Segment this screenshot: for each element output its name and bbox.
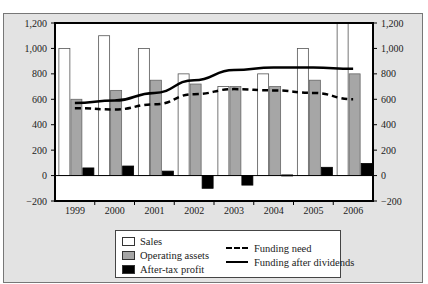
y-tick-label-right: 800	[381, 68, 396, 79]
bar-operating-assets	[270, 87, 281, 176]
y-tick-label-right: 1,200	[381, 18, 404, 29]
legend: Sales Operating assets After-tax profit …	[115, 230, 341, 278]
y-tick-label-left: 800	[32, 68, 47, 79]
legend-label: Funding after dividends	[254, 257, 354, 268]
bar-operating-assets	[309, 80, 320, 175]
x-tick-label: 2003	[224, 205, 244, 216]
legend-item-operating-assets: Operating assets	[122, 249, 209, 261]
bar-operating-assets	[230, 87, 241, 176]
bar-sales	[138, 48, 149, 175]
y-tick-label-left: 400	[32, 119, 47, 130]
y-tick-label-left: 200	[32, 145, 47, 156]
legend-item-funding-after-dividends: Funding after dividends	[226, 256, 354, 268]
y-tick-label-left: 0	[42, 170, 47, 181]
x-tick-label: 1999	[65, 205, 85, 216]
operating-assets-swatch-icon	[122, 251, 135, 260]
y-tick-label-right: 200	[381, 145, 396, 156]
dashed-line-icon	[226, 247, 248, 249]
y-tick-label-left: 1,000	[25, 43, 48, 54]
y-tick-label-left: 600	[32, 94, 47, 105]
y-tick-label-right: 1,000	[381, 43, 404, 54]
bar-operating-assets	[71, 99, 82, 175]
sales-swatch-icon	[122, 237, 135, 246]
legend-item-funding-need: Funding need	[226, 242, 311, 254]
bar-after-tax-profit	[123, 166, 134, 176]
bar-operating-assets	[190, 84, 201, 176]
legend-label: After-tax profit	[140, 264, 204, 275]
x-tick-label: 2005	[303, 205, 323, 216]
bar-sales	[59, 48, 70, 175]
bar-sales	[218, 87, 229, 176]
x-tick-label: 2002	[184, 205, 204, 216]
chart-canvas: −200−200002002004004006006008008001,0001…	[0, 0, 428, 230]
y-tick-label-right: 600	[381, 94, 396, 105]
legend-item-sales: Sales	[122, 235, 162, 247]
bar-sales	[178, 74, 189, 176]
x-tick-label: 2000	[105, 205, 125, 216]
legend-label: Operating assets	[140, 250, 209, 261]
bar-after-tax-profit	[361, 163, 372, 175]
y-tick-label-right: 400	[381, 119, 396, 130]
x-tick-label: 2004	[264, 205, 284, 216]
after-tax-profit-swatch-icon	[122, 265, 135, 274]
bar-operating-assets	[111, 90, 122, 175]
bar-after-tax-profit	[321, 167, 332, 175]
bar-operating-assets	[349, 74, 360, 176]
bar-after-tax-profit	[242, 176, 253, 186]
solid-line-icon	[226, 261, 248, 263]
bar-after-tax-profit	[162, 171, 173, 175]
bar-after-tax-profit	[202, 176, 213, 189]
y-tick-label-right: −200	[381, 196, 402, 207]
legend-label: Funding need	[254, 243, 311, 254]
bar-operating-assets	[150, 80, 161, 175]
y-tick-label-right: 0	[381, 170, 386, 181]
bar-after-tax-profit	[83, 168, 94, 176]
legend-item-after-tax-profit: After-tax profit	[122, 263, 204, 275]
x-tick-label: 2001	[144, 205, 164, 216]
legend-label: Sales	[140, 236, 162, 247]
bar-sales	[99, 36, 110, 176]
y-tick-label-left: −200	[26, 196, 47, 207]
y-tick-label-left: 1,200	[25, 18, 48, 29]
x-tick-label: 2006	[343, 205, 363, 216]
